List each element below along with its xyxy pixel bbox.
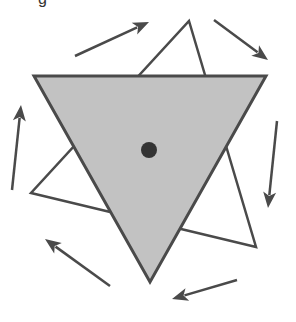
center-of-rotation	[141, 142, 157, 158]
arrow-bottom-left-icon	[45, 239, 110, 286]
arrow-top-right-icon	[214, 20, 268, 60]
rotation-diagram	[0, 0, 296, 322]
arrow-top-left-icon	[75, 22, 149, 56]
arrow-left-icon	[12, 105, 26, 190]
arrow-bottom-right-icon	[172, 280, 237, 301]
arrow-right-icon	[263, 121, 277, 208]
